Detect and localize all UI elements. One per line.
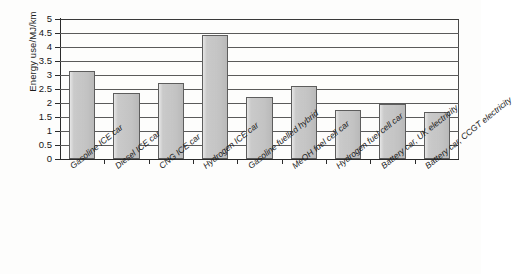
y-axis-tick	[55, 117, 60, 118]
gridline	[60, 89, 459, 90]
y-axis-tick	[55, 103, 60, 104]
y-axis-tick-label: 5	[12, 14, 52, 24]
y-axis-tick	[55, 159, 60, 160]
y-axis-tick-label: 1.5	[12, 112, 52, 122]
x-axis-tick-labels: Gasoline ICE carDiesel ICE carCNG ICE ca…	[60, 163, 480, 273]
y-axis-tick-label: 3	[12, 70, 52, 80]
y-axis-tick	[55, 131, 60, 132]
y-axis-tick	[55, 89, 60, 90]
y-axis-tick	[55, 47, 60, 48]
gridline	[60, 19, 459, 20]
y-axis-tick-label: 2.5	[12, 84, 52, 94]
bar	[202, 35, 229, 159]
y-axis-tick-label: 4	[12, 42, 52, 52]
y-axis-tick-label: 0	[12, 154, 52, 164]
y-axis-tick	[55, 33, 60, 34]
y-axis-tick	[55, 19, 60, 20]
gridline	[60, 75, 459, 76]
y-axis-tick-label: 1	[12, 126, 52, 136]
y-axis-tick	[55, 145, 60, 146]
gridline	[60, 47, 459, 48]
gridline	[60, 33, 459, 34]
y-axis-tick-label: 0.5	[12, 140, 52, 150]
gridline	[60, 61, 459, 62]
y-axis-tick-label: 4.5	[12, 28, 52, 38]
plot-area	[60, 19, 459, 159]
y-axis-tick	[55, 75, 60, 76]
y-axis-tick-label: 3.5	[12, 56, 52, 66]
y-axis-tick-label: 2	[12, 98, 52, 108]
y-axis-tick	[55, 61, 60, 62]
